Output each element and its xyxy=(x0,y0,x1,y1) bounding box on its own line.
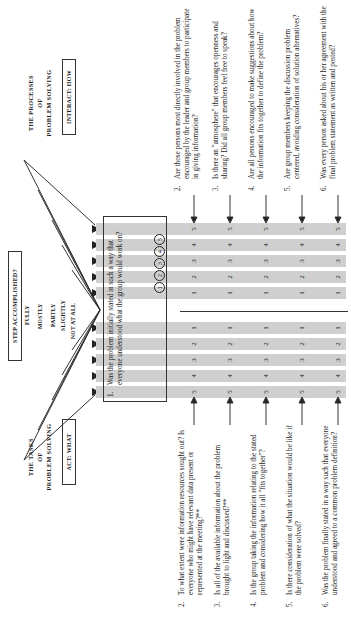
task-item-5: 5. Is there consideration of what the si… xyxy=(286,425,304,607)
process-item-3: 3. Is there an "atmosphere" that encoura… xyxy=(212,5,230,191)
task-item-6: 6. Was the problem finally stated in a w… xyxy=(322,425,340,607)
task-item-4: 4. Is the group taking the information r… xyxy=(250,425,268,607)
process-item-6: 6. Was every person asked about his or h… xyxy=(320,5,338,191)
task-item-2: 2. To what extent were information resou… xyxy=(178,425,205,607)
process-item-4: 4. Are all persons encouraged to make su… xyxy=(248,5,266,191)
process-item-5: 5. Are group members keeping the discuss… xyxy=(284,5,302,191)
task-item-3: 3. Is all of the available information a… xyxy=(214,425,232,607)
rotated-document-page: STEP ACCOMPLISHED? FULLY MOS xyxy=(0,0,351,625)
process-item-2: 2. Are those persons most directly invol… xyxy=(174,5,201,191)
